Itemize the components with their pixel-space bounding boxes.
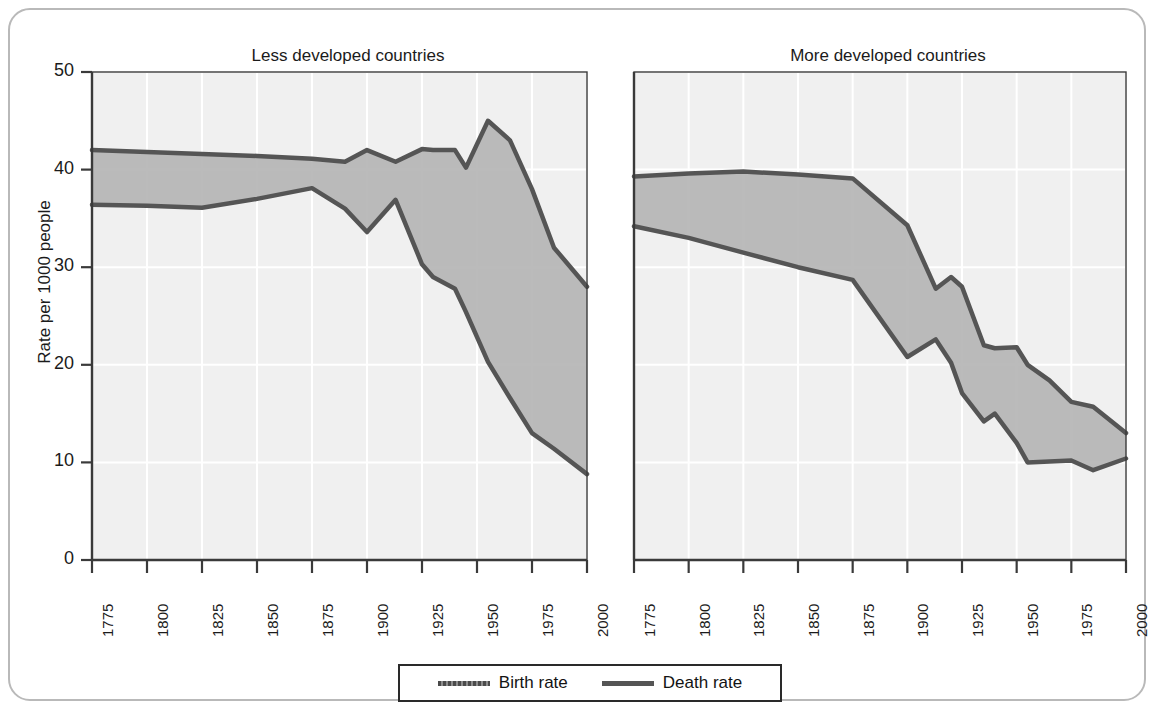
legend-entry-birth-rate[interactable]: Birth rate <box>438 673 568 693</box>
birth-rate-line-icon <box>438 681 490 686</box>
legend-label-birth-rate: Birth rate <box>499 673 568 693</box>
charts-canvas <box>10 10 1148 703</box>
legend-entry-death-rate[interactable]: Death rate <box>602 673 742 693</box>
legend-label-death-rate: Death rate <box>663 673 742 693</box>
plot-more-developed <box>634 72 1126 573</box>
outer-frame: Less developed countries More developed … <box>8 8 1146 701</box>
legend: Birth rate Death rate <box>398 664 782 702</box>
death-rate-line-icon <box>602 681 654 686</box>
plot-less-developed <box>81 72 587 573</box>
chart-page: Less developed countries More developed … <box>0 0 1160 719</box>
